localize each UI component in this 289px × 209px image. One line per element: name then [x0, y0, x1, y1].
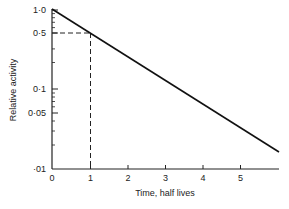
x-tick-label: 5 — [238, 173, 243, 183]
y-tick-label: 0·05 — [28, 108, 46, 118]
x-axis-title: Time, half lives — [135, 188, 195, 198]
y-tick-label: 0·1 — [33, 84, 46, 94]
decay-line — [52, 9, 279, 152]
x-tick-label: 1 — [88, 173, 93, 183]
half-life-guide — [52, 33, 91, 169]
x-tick-label: 4 — [200, 173, 205, 183]
y-tick-label: 0·5 — [33, 28, 46, 38]
y-major-ticks — [52, 10, 58, 113]
y-tick-label: ·01 — [33, 164, 46, 174]
y-tick-label: 1·0 — [33, 5, 46, 15]
x-tick-label: 2 — [125, 173, 130, 183]
decay-chart: 1·0 0·5 0·1 0·05 ·01 0 1 2 3 4 5 Time, h… — [0, 0, 289, 209]
x-tick-label: 3 — [163, 173, 168, 183]
x-tick-label: 0 — [49, 173, 54, 183]
y-axis-title: Relative activity — [8, 58, 18, 121]
